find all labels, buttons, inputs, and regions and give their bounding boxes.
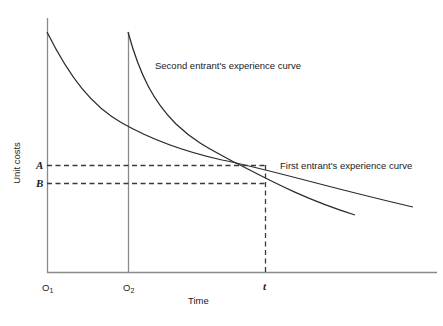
x-tick-label-o1-subscript: 1 — [49, 287, 53, 294]
y-axis-title: Unit costs — [10, 118, 24, 208]
curve-first-entrant — [47, 32, 413, 207]
y-tick-label-a: A — [36, 160, 43, 171]
x-axis-title: Time — [188, 296, 209, 306]
annotation-first-entrant-curve: First entrant's experience curve — [280, 161, 412, 171]
experience-curve-chart: Unit costs Time O1 O2 t A B Second entra… — [0, 0, 443, 326]
y-axis-title-text: Unit costs — [12, 142, 22, 184]
x-tick-label-t: t — [263, 281, 266, 292]
annotation-second-entrant-curve: Second entrant's experience curve — [155, 61, 301, 71]
x-tick-label-o1: O1 — [42, 283, 53, 293]
y-tick-label-b: B — [36, 178, 43, 189]
x-tick-label-o2-subscript: 2 — [130, 287, 134, 294]
x-tick-label-o2: O2 — [123, 283, 134, 293]
